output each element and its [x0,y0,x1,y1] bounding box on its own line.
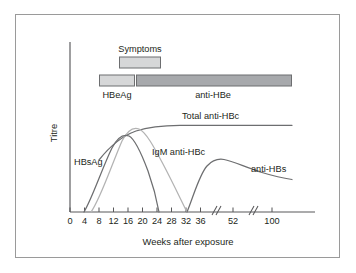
hbeag-bar-label: HBeAg [102,90,131,100]
axis-break-marks [212,206,258,215]
x-tick-label: 20 [137,216,147,226]
total-anti-hbc-label: Total anti-HBc [182,111,240,121]
x-tick-label: 16 [123,216,133,226]
x-tick-label: 52 [228,216,238,226]
hbsag-label: HBsAg [74,157,103,167]
hepatitis-b-serology-chart: 0 4 8 12 16 20 24 28 32 36 52 100 Weeks … [0,0,356,273]
x-tick-label: 4 [82,216,87,226]
anti-hbe-bar-label: anti-HBe [195,90,231,100]
hbsag-curve [84,135,159,212]
x-tick-label: 24 [152,216,162,226]
hbeag-bar [100,75,135,86]
x-tick-label: 32 [181,216,191,226]
x-tick-label: 28 [166,216,176,226]
anti-hbs-label: anti-HBs [251,164,287,174]
x-axis-ticks [70,208,272,213]
anti-hbe-bar [137,75,292,86]
x-axis-title: Weeks after exposure [142,236,233,247]
symptoms-bar-label: Symptoms [118,44,162,54]
igm-anti-hbc-label: IgM anti-HBc [152,147,206,157]
x-tick-label: 100 [264,216,279,226]
x-tick-label: 0 [67,216,72,226]
igm-anti-hbc-curve [91,128,187,212]
x-tick-label: 12 [108,216,118,226]
symptoms-bar [120,57,161,68]
x-tick-label: 36 [195,216,205,226]
y-axis-title: Titre [48,124,59,142]
x-tick-label: 8 [96,216,101,226]
x-tick-labels: 0 4 8 12 16 20 24 28 32 36 52 100 [67,216,279,226]
